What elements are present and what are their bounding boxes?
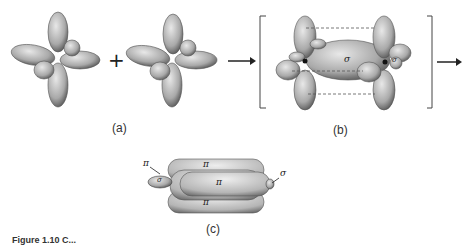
pi-label-top: π xyxy=(203,159,209,169)
panel-label-b: (b) xyxy=(333,123,348,137)
arrow-a-to-b xyxy=(228,57,256,65)
arrow-b-to-c xyxy=(437,58,462,66)
plus-operator: + xyxy=(108,48,125,72)
bracket-left xyxy=(260,16,266,108)
panel-label-a: (a) xyxy=(112,121,127,135)
panel-label-c: (c) xyxy=(206,222,220,236)
pi-label-arrow: π xyxy=(143,158,149,168)
atom-a2 xyxy=(125,14,217,107)
sigma-label-left: σ xyxy=(157,176,162,184)
figure-caption: Figure 1.10 C... xyxy=(12,235,76,245)
sigma-label-b: σ xyxy=(344,54,350,64)
pi-label-bottom: π xyxy=(203,197,209,207)
bracket-right xyxy=(427,16,432,108)
pi-bond-cloud xyxy=(148,159,279,213)
sigma-label-b-side: σ xyxy=(392,56,397,64)
atom-a1 xyxy=(10,12,100,107)
sigma-label-right: σ xyxy=(280,168,286,178)
pi-label-middle: π xyxy=(216,177,222,187)
